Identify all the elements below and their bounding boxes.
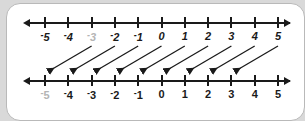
negative-sign: - [64, 30, 67, 40]
label-bottom-5: 5 [275, 89, 281, 100]
label-bottom-4: 4 [252, 89, 258, 100]
tick-bottom--2 [114, 75, 116, 86]
mapping-arrow--3-to--5 [49, 46, 92, 71]
tick-top-5 [277, 17, 279, 28]
tick-top-3 [230, 17, 232, 28]
label-top--5: -5 [40, 31, 49, 43]
tick-top-4 [254, 17, 256, 28]
tick-bottom--4 [67, 75, 69, 86]
tick-bottom-5 [277, 75, 279, 86]
label-bottom-1: 1 [182, 89, 188, 100]
negative-sign: - [110, 88, 113, 98]
mapping-arrow-3-to-1 [189, 46, 232, 71]
bottom-axis-right-arrow-icon [284, 77, 291, 85]
negative-sign: - [110, 30, 113, 40]
label-top-1: 1 [182, 31, 188, 42]
label-bottom--3: -3 [87, 89, 96, 101]
top-axis-right-arrow-icon [284, 19, 291, 27]
label-top--2: -2 [110, 31, 119, 43]
tick-top--5 [44, 17, 46, 28]
tick-bottom-2 [207, 75, 209, 86]
mapping-arrow--1-to--3 [96, 46, 139, 71]
tick-bottom--1 [137, 75, 139, 86]
negative-sign: - [87, 88, 90, 98]
label-bottom--5: -5 [40, 89, 49, 101]
negative-sign: - [64, 88, 67, 98]
label-bottom-2: 2 [205, 89, 211, 100]
label-top-0: 0 [158, 31, 164, 42]
tick-top-2 [207, 17, 209, 28]
label-top-3: 3 [228, 31, 234, 42]
bottom-axis-left-arrow-icon [23, 77, 30, 85]
label-bottom--4: -4 [64, 89, 73, 101]
mapping-arrow-0-to--2 [119, 46, 162, 71]
tick-top-0 [161, 17, 163, 28]
tick-bottom-3 [230, 75, 232, 86]
negative-sign: - [134, 88, 137, 98]
mapping-arrow-2-to-0 [166, 46, 209, 71]
negative-sign: - [87, 30, 90, 40]
label-bottom--2: -2 [110, 89, 119, 101]
negative-sign: - [40, 88, 43, 98]
diagram-stage: -5-4-3-2-1012345 -5-4-3-2-1012345 [7, 4, 299, 106]
label-bottom--1: -1 [134, 89, 143, 101]
tick-bottom-0 [161, 75, 163, 86]
tick-top--4 [67, 17, 69, 28]
label-top-2: 2 [205, 31, 211, 42]
label-top-5: 5 [275, 31, 281, 42]
label-bottom-0: 0 [158, 89, 164, 100]
diagram-card: -5-4-3-2-1012345 -5-4-3-2-1012345 [6, 3, 299, 106]
tick-top--2 [114, 17, 116, 28]
tick-bottom--3 [91, 75, 93, 86]
label-bottom-3: 3 [228, 89, 234, 100]
label-top--1: -1 [134, 31, 143, 43]
label-top-4: 4 [252, 31, 258, 42]
mapping-arrow-5-to-3 [235, 46, 278, 71]
top-axis-left-arrow-icon [23, 19, 30, 27]
tick-bottom--5 [44, 75, 46, 86]
label-top--3: -3 [87, 31, 96, 43]
negative-sign: - [134, 30, 137, 40]
negative-sign: - [40, 30, 43, 40]
mapping-arrow--2-to--4 [72, 46, 115, 71]
tick-bottom-1 [184, 75, 186, 86]
label-top--4: -4 [64, 31, 73, 43]
mapping-arrow-4-to-2 [212, 46, 255, 71]
tick-top--1 [137, 17, 139, 28]
tick-top-1 [184, 17, 186, 28]
tick-bottom-4 [254, 75, 256, 86]
tick-top--3 [91, 17, 93, 28]
mapping-arrow-1-to--1 [142, 46, 185, 71]
